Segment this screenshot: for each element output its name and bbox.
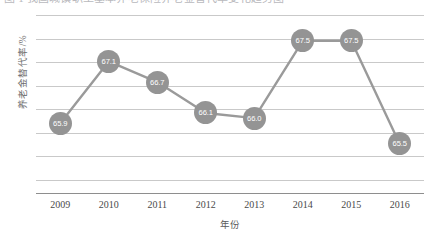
- data-point-marker[interactable]: 67.5: [340, 29, 363, 52]
- data-point-marker[interactable]: 65.9: [49, 112, 72, 135]
- plot-area: 65.967.166.766.166.067.567.565.5: [36, 15, 424, 180]
- x-axis-line: [36, 193, 424, 194]
- x-axis-tick-label: 2011: [132, 199, 182, 210]
- x-axis-tick-label: 2015: [326, 199, 376, 210]
- data-point-marker[interactable]: 66.7: [146, 71, 169, 94]
- y-axis-title: 养老金替代率/%: [15, 30, 29, 114]
- x-axis-tick-label: 2014: [278, 199, 328, 210]
- x-axis-tick-label: 2009: [35, 199, 85, 210]
- x-axis-title: 年份: [36, 217, 424, 231]
- chart-page: 图 1 我国城镇职工基本养老保险养老金替代率变化趋势图 养老金替代率/% 65.…: [0, 0, 442, 244]
- x-axis-tick-labels: 20092010201120122013201420152016: [36, 199, 424, 215]
- x-axis-tick-label: 2013: [229, 199, 279, 210]
- data-point-marker[interactable]: 67.1: [97, 50, 120, 73]
- x-axis-tick-label: 2010: [84, 199, 134, 210]
- gridline: [36, 180, 424, 181]
- x-axis-tick-label: 2012: [181, 199, 231, 210]
- figure-caption-clipped: 图 1 我国城镇职工基本养老保险养老金替代率变化趋势图: [0, 0, 442, 9]
- figure-caption-text: 图 1 我国城镇职工基本养老保险养老金替代率变化趋势图: [4, 0, 442, 5]
- series-line: [36, 15, 424, 180]
- line-chart: 养老金替代率/% 65.967.166.766.166.067.567.565.…: [0, 9, 442, 244]
- x-axis-tick-label: 2016: [375, 199, 425, 210]
- data-point-marker[interactable]: 66.0: [243, 107, 266, 130]
